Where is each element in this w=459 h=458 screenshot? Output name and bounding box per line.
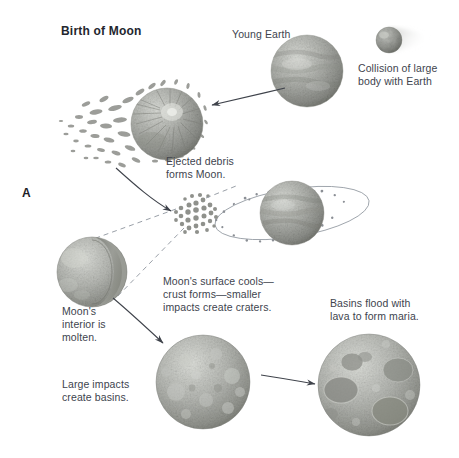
diagram-canvas: Birth of Moon A Young Earth Collision of… (0, 0, 459, 458)
debris-orbit-ring (211, 177, 373, 249)
label-collision: Collision of large body with Earth (358, 62, 437, 88)
label-basins-flood: Basins flood with lava to form maria. (330, 297, 419, 323)
stage-molten-moon (57, 237, 127, 307)
label-young-earth: Young Earth (232, 28, 291, 41)
arrow-ejecta-to-cluster (116, 168, 171, 211)
arrow-collision-to-ejecta (212, 88, 285, 105)
stage-cratered-moon (156, 335, 250, 429)
callout-leader-upper (96, 209, 176, 238)
arrow-cratered-to-maria (261, 375, 315, 384)
label-surface-cools: Moon's surface cools— crust forms—smalle… (163, 275, 274, 314)
panel-letter: A (22, 186, 31, 200)
stage-maria-moon (318, 334, 420, 436)
callout-leader-top-right (206, 186, 236, 198)
stage-orbiting-earth (211, 177, 373, 250)
stage-impactor-body (376, 27, 431, 53)
stage-proto-moon-cluster (174, 193, 218, 234)
ring-debris-particles (212, 180, 350, 251)
stage-young-earth (271, 35, 347, 107)
label-large-impacts: Large impacts create basins. (62, 378, 129, 404)
label-molten-interior: Moon's interior is molten. (62, 305, 106, 344)
page-title: Birth of Moon (61, 24, 142, 38)
label-ejected-debris: Ejected debris forms Moon. (166, 155, 234, 181)
arrow-molten-to-cratered (113, 298, 163, 343)
